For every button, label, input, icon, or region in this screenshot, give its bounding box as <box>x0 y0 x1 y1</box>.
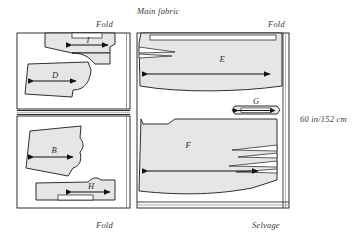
piece-g-letter: G <box>253 96 259 106</box>
left-panel-separator-band <box>17 110 130 115</box>
layout-svg: I D B <box>0 0 362 241</box>
piece-f-letter: F <box>184 140 191 150</box>
piece-e-letter: E <box>218 54 225 64</box>
piece-f: F <box>139 119 277 194</box>
piece-b-letter: B <box>51 145 56 155</box>
pattern-layout-diagram: Main fabric Fold Fold Fold Selvage 60 in… <box>0 0 362 241</box>
piece-e: E <box>139 33 282 91</box>
piece-d-letter: D <box>51 70 59 80</box>
piece-h-letter: H <box>87 181 95 191</box>
